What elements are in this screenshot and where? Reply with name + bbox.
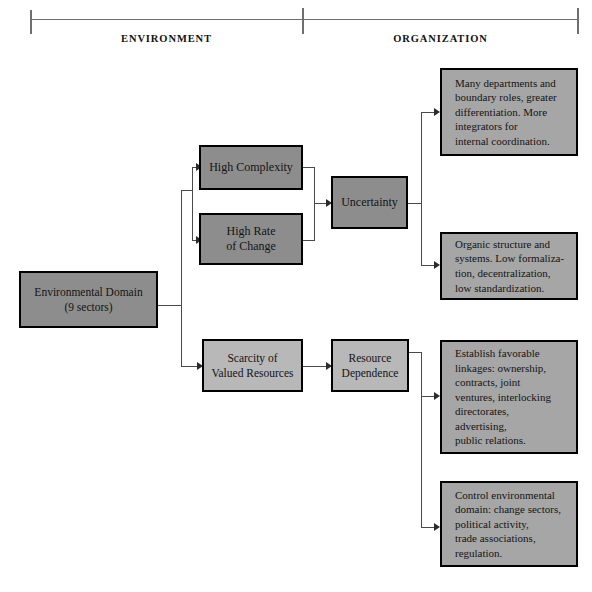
bracket-horizontal-left	[30, 19, 303, 20]
outcome-3-line: linkages: ownership,	[455, 361, 551, 376]
outcome-4-line: trade associations,	[455, 531, 561, 546]
node-outcome-control-domain[interactable]: Control environmental domain: change sec…	[440, 481, 578, 567]
outcome-4-line: domain: change sectors,	[455, 502, 561, 517]
connector-merge-vertical-uncertainty	[314, 167, 315, 241]
node-high-rate-of-change-line2: of Change	[226, 239, 276, 254]
connector-domain-to-trunk	[158, 305, 182, 306]
node-high-rate-of-change[interactable]: High Rate of Change	[199, 213, 303, 265]
bracket-tick-middle	[302, 8, 304, 34]
diagram-canvas: ENVIRONMENT ORGANIZATION Environmental D…	[0, 0, 592, 592]
node-environmental-domain-line2: (9 sectors)	[34, 300, 142, 314]
outcome-1-line: differentiation. More	[455, 105, 557, 120]
outcome-2-line: systems. Low formaliza-	[455, 251, 564, 266]
outcome-3-line: advertising,	[455, 419, 551, 434]
bracket-tick-right	[577, 8, 579, 34]
node-resource-dependence-line1: Resource	[342, 351, 399, 365]
outcome-1-line: integrators for	[455, 119, 557, 134]
node-uncertainty[interactable]: Uncertainty	[331, 176, 408, 229]
outcome-2-line: tion, decentralization,	[455, 266, 564, 281]
outcome-1-line: Many departments and	[455, 76, 557, 91]
outcome-4-line: political activity,	[455, 517, 561, 532]
node-high-complexity[interactable]: High Complexity	[199, 145, 303, 190]
outcome-1-line: boundary roles, greater	[455, 90, 557, 105]
node-environmental-domain-line1: Environmental Domain	[34, 285, 142, 299]
node-environmental-domain[interactable]: Environmental Domain (9 sectors)	[19, 271, 158, 328]
header-label-organization: ORGANIZATION	[302, 33, 579, 44]
node-outcome-differentiation[interactable]: Many departments and boundary roles, gre…	[440, 68, 578, 156]
bracket-horizontal-right	[302, 19, 579, 20]
node-scarcity-line2: Valued Resources	[211, 366, 293, 380]
node-scarcity-of-valued-resources[interactable]: Scarcity of Valued Resources	[202, 339, 303, 392]
connector-resource-split-vertical	[421, 352, 422, 528]
node-high-complexity-label: High Complexity	[209, 160, 293, 175]
node-outcome-favorable-linkages[interactable]: Establish favorable linkages: ownership,…	[440, 340, 578, 454]
outcome-4-line: regulation.	[455, 546, 561, 561]
outcome-2-line: Organic structure and	[455, 237, 564, 252]
outcome-3-line: ventures, interlocking	[455, 390, 551, 405]
outcome-3-line: directorates,	[455, 404, 551, 419]
node-resource-dependence[interactable]: Resource Dependence	[331, 339, 409, 392]
outcome-3-line: Establish favorable	[455, 346, 551, 361]
connector-uncertainty-out	[408, 203, 422, 204]
outcome-1-line: internal coordination.	[455, 134, 557, 149]
node-resource-dependence-line2: Dependence	[342, 366, 399, 380]
connector-uncertainty-split-vertical	[421, 112, 422, 266]
outcome-3-line: public relations.	[455, 433, 551, 448]
node-uncertainty-label: Uncertainty	[341, 195, 398, 210]
outcome-3-line: contracts, joint	[455, 375, 551, 390]
node-scarcity-line1: Scarcity of	[211, 351, 293, 365]
node-high-rate-of-change-line1: High Rate	[226, 224, 276, 239]
bracket-tick-left	[30, 10, 32, 34]
connector-scarcity-to-resource-dependence	[303, 366, 328, 367]
outcome-4-line: Control environmental	[455, 488, 561, 503]
outcome-2-line: low standardization.	[455, 281, 564, 296]
node-outcome-organic-structure[interactable]: Organic structure and systems. Low forma…	[440, 232, 578, 300]
connector-subtrunk-vertical	[192, 167, 193, 240]
header-label-environment: ENVIRONMENT	[30, 33, 303, 44]
connector-main-trunk-vertical	[181, 190, 182, 367]
